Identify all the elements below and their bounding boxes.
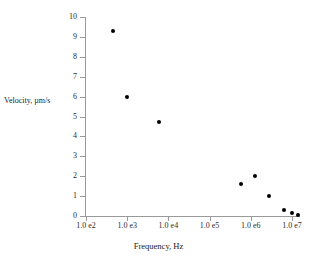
y-tick-mark xyxy=(80,136,85,137)
y-tick-label: 7 xyxy=(62,73,77,81)
data-point xyxy=(157,120,161,124)
chart-figure: 012345678910 1.0 e21.0 e31.0 e41.0 e51.0… xyxy=(0,0,317,267)
y-tick-mark xyxy=(80,37,85,38)
x-tick-label: 1.0 e2 xyxy=(64,221,108,230)
data-point xyxy=(125,95,129,99)
y-axis-title: Velocity, µm/s xyxy=(4,96,62,106)
y-tick-label: 3 xyxy=(62,152,77,160)
data-point xyxy=(282,208,286,212)
y-tick-label: 5 xyxy=(62,113,77,121)
y-tick-label: 8 xyxy=(62,53,77,61)
y-tick-mark xyxy=(80,117,85,118)
data-point xyxy=(253,174,257,178)
data-point xyxy=(290,211,294,215)
x-tick-label: 1.0 e6 xyxy=(229,221,273,230)
y-tick-label: 4 xyxy=(62,132,77,140)
data-point xyxy=(267,194,271,198)
y-tick-label: 10 xyxy=(62,13,77,21)
y-axis-line xyxy=(85,17,86,217)
x-axis-line xyxy=(85,216,300,217)
y-tick-label: 1 xyxy=(62,192,77,200)
data-point xyxy=(239,182,243,186)
y-tick-mark xyxy=(80,216,85,217)
y-tick-label: 2 xyxy=(62,172,77,180)
y-tick-mark xyxy=(80,156,85,157)
y-tick-label: 9 xyxy=(62,33,77,41)
x-tick-label: 1.0 e4 xyxy=(146,221,190,230)
y-tick-mark xyxy=(80,57,85,58)
y-tick-mark xyxy=(80,77,85,78)
y-tick-mark xyxy=(80,196,85,197)
x-tick-label: 1.0 e3 xyxy=(105,221,149,230)
y-tick-label: 0 xyxy=(62,212,77,220)
y-tick-mark xyxy=(80,97,85,98)
data-point xyxy=(111,29,115,33)
x-axis-title: Frequency, Hz xyxy=(0,241,317,251)
x-tick-label: 1.0 e5 xyxy=(188,221,232,230)
y-tick-mark xyxy=(80,176,85,177)
x-tick-label: 1.0 e7 xyxy=(270,221,314,230)
y-tick-label: 6 xyxy=(62,93,77,101)
y-tick-mark xyxy=(80,17,85,18)
data-point xyxy=(296,213,300,217)
